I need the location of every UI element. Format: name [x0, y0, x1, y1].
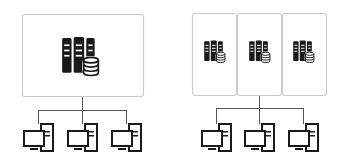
server-database-icon	[248, 40, 272, 64]
server-database-icon	[203, 40, 227, 64]
connector-drop	[126, 110, 127, 124]
desktop-computer-icon	[66, 123, 100, 153]
desktop-computer-icon	[22, 123, 56, 153]
connector-drop	[82, 110, 83, 124]
connector-drop	[38, 110, 39, 124]
desktop-computer-icon	[243, 123, 277, 153]
desktop-computer-icon	[200, 123, 234, 153]
connector-drop	[303, 108, 304, 124]
server-database-icon	[60, 36, 102, 78]
connector-stem	[259, 96, 260, 108]
connector-stem	[82, 97, 83, 110]
server-database-icon	[292, 40, 316, 64]
connector-drop	[259, 108, 260, 124]
connector-bus	[216, 108, 304, 109]
desktop-computer-icon	[110, 123, 144, 153]
desktop-computer-icon	[287, 123, 321, 153]
connector-drop	[216, 108, 217, 124]
